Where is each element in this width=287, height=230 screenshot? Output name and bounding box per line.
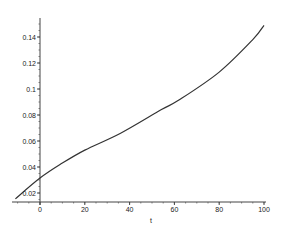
x-tick-label: 40 [126,206,134,213]
x-tick-label: 0 [38,206,42,213]
x-tick-label: 60 [171,206,179,213]
x-tick-label: 20 [81,206,89,213]
y-tick-label: 0.04 [22,164,36,171]
x-tick-label: 100 [258,206,270,213]
y-tick-label: 0.1 [26,86,36,93]
tick-marks [18,24,264,205]
y-tick-label: 0.14 [22,34,36,41]
y-tick-label: 0.12 [22,60,36,67]
x-tick-label: 80 [215,206,223,213]
axes [12,18,266,205]
line-chart: 0.020.040.060.080.10.120.14020406080100 … [0,0,287,230]
data-line [15,25,264,199]
x-axis-label: t [150,217,152,224]
y-tick-label: 0.06 [22,138,36,145]
y-tick-label: 0.08 [22,112,36,119]
